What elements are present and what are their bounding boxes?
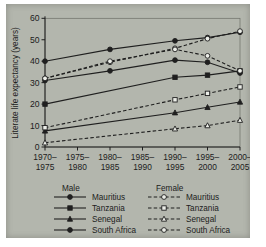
circle-marker (108, 68, 113, 73)
triangle-marker (237, 117, 242, 122)
figure-page: Literate life expectancy (years) 0102030… (0, 0, 266, 247)
legend-label: South Africa (92, 226, 137, 235)
legend-label: Tanzania (92, 204, 125, 213)
y-tick-label: 20 (30, 99, 40, 109)
circle-marker (238, 68, 243, 73)
circle-marker (43, 76, 48, 81)
legend-column-male: MaleMauritiusTanzaniaSenegalSouth Africa (54, 184, 137, 235)
scanned-figure-panel: Literate life expectancy (years) 0102030… (6, 4, 250, 238)
series-south-africa-male (43, 58, 243, 83)
legend-label: Senegal (92, 215, 122, 224)
square-marker (173, 75, 177, 79)
y-tick-label: 50 (30, 35, 40, 45)
legend-label: Senegal (186, 215, 216, 224)
x-category-label: 2000–2005 (228, 152, 250, 172)
y-tick-label: 10 (30, 121, 40, 131)
square-marker (162, 206, 166, 210)
legend-item-south-africa-female: South Africa (148, 226, 231, 235)
circle-marker (238, 29, 243, 34)
series-senegal-male (42, 99, 242, 133)
circle-marker (68, 228, 73, 233)
legend-column-female: FemaleMauritiusTanzaniaSenegalSouth Afri… (148, 184, 231, 235)
circle-marker (173, 58, 178, 63)
legend-item-tanzania-female: Tanzania (148, 204, 219, 213)
literate-life-expectancy-chart: Literate life expectancy (years) 0102030… (6, 4, 250, 238)
legend-item-mauritius-male: Mauritius (54, 193, 125, 202)
circle-marker (162, 195, 167, 200)
x-category-label: 1980–1985 (98, 152, 122, 172)
y-tick-label: 60 (30, 13, 40, 23)
chart-legend: MaleMauritiusTanzaniaSenegalSouth Africa… (54, 184, 231, 235)
circle-marker (68, 195, 73, 200)
circle-marker (205, 53, 210, 58)
legend-header-male: Male (62, 184, 80, 193)
legend-label: Tanzania (186, 204, 219, 213)
triangle-marker (237, 99, 242, 104)
legend-item-senegal-female: Senegal (148, 215, 216, 224)
circle-marker (205, 60, 210, 65)
legend-label: Mauritius (186, 193, 219, 202)
x-category-label: 1985–1990 (131, 152, 155, 172)
x-category-label: 1970–1975 (33, 152, 57, 172)
square-marker (238, 85, 242, 89)
square-marker (43, 125, 47, 129)
y-tick-label: 30 (30, 78, 40, 88)
x-category-label: 1975–1980 (66, 152, 90, 172)
circle-marker (173, 47, 178, 52)
circle-marker (162, 228, 167, 233)
circle-marker (43, 59, 48, 64)
circle-marker (108, 47, 113, 52)
y-axis-title: Literate life expectancy (years) (11, 27, 20, 139)
square-marker (173, 98, 177, 102)
square-marker (68, 206, 72, 210)
circle-marker (205, 36, 210, 41)
square-marker (43, 102, 47, 106)
plot-area: 01020304050601970–19751975–19801980–1985… (30, 13, 250, 171)
legend-item-mauritius-female: Mauritius (148, 193, 219, 202)
series-tanzania-male (43, 69, 242, 107)
legend-label: South Africa (186, 226, 231, 235)
legend-header-female: Female (156, 184, 184, 193)
circle-marker (173, 38, 178, 43)
series-line (45, 120, 240, 143)
y-tick-label: 40 (30, 56, 40, 66)
x-category-label: 1995–2000 (196, 152, 220, 172)
y-tick-label: 0 (35, 142, 40, 152)
circle-marker (108, 59, 113, 64)
series-line (45, 32, 240, 61)
legend-item-tanzania-male: Tanzania (54, 204, 125, 213)
series-senegal-female (42, 117, 242, 145)
x-category-label: 1990–1995 (163, 152, 187, 172)
legend-item-south-africa-male: South Africa (54, 226, 137, 235)
square-marker (205, 91, 209, 95)
square-marker (205, 73, 209, 77)
series-tanzania-female (43, 85, 242, 130)
legend-item-senegal-male: Senegal (54, 215, 122, 224)
legend-label: Mauritius (92, 193, 125, 202)
